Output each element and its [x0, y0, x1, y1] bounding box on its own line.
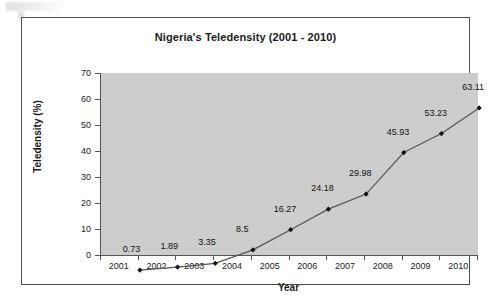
data-point-label: 63.11: [462, 82, 484, 92]
series-line: [140, 108, 479, 270]
data-point-marker: [213, 261, 218, 266]
data-point-marker: [175, 264, 180, 269]
data-point-label: 29.98: [349, 168, 372, 178]
data-point-label: 24.18: [311, 183, 334, 193]
figure: Nigeria's Teledensity (2001 - 2010) 0102…: [0, 0, 495, 299]
series-markers: [137, 105, 482, 272]
data-point-marker: [326, 207, 331, 212]
series-layer: [43, 35, 492, 299]
data-point-marker: [137, 268, 142, 273]
data-point-label: 45.93: [387, 127, 410, 137]
data-point-label: 0.73: [123, 244, 141, 254]
data-point-marker: [288, 227, 293, 232]
scan-artifact: [6, 2, 66, 11]
data-point-label: 1.89: [161, 241, 179, 251]
data-point-label: 16.27: [274, 204, 297, 214]
data-point-label: 8.5: [236, 224, 249, 234]
data-point-marker: [250, 247, 255, 252]
data-point-label: 3.35: [198, 237, 216, 247]
chart-frame: Nigeria's Teledensity (2001 - 2010) 0102…: [21, 17, 470, 285]
y-axis-title: Teledensity (%): [32, 82, 43, 192]
data-point-label: 53.23: [424, 108, 447, 118]
